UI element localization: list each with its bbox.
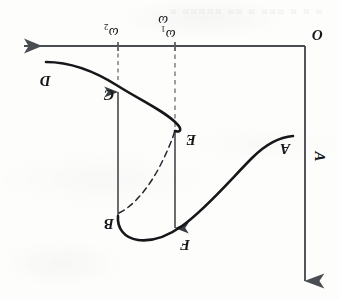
point-label-F: F (180, 236, 190, 253)
curve-unstable-branch (119, 130, 175, 213)
point-label-E: E (186, 131, 196, 148)
tick-label-omega2-base: ω (109, 25, 119, 40)
point-label-A: A (280, 140, 290, 157)
point-label-B: B (104, 215, 114, 232)
tick-label-omega2: ω2 (104, 22, 118, 40)
point-label-C: C (104, 86, 114, 103)
tick-label-omega2-sub: 2 (104, 22, 109, 32)
curve-lower-branch (118, 136, 293, 240)
point-label-D: D (40, 72, 51, 89)
axis-label-amplitude: A (311, 151, 328, 161)
tick-label-omega1-base: ω (166, 27, 176, 42)
figure-canvas: ≈ ≈ ≈ ≈≈≈ ≈ ≈≈ ≈≈≈≈≈ ≈ (0, 0, 340, 299)
tick-label-omega1: ω1 (161, 24, 175, 42)
origin-label: O (312, 26, 323, 43)
tick-label-omega1-sub: 1 (161, 24, 166, 34)
